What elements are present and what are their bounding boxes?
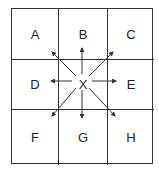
cell-e: E <box>108 60 154 110</box>
cell-g: G <box>59 110 108 165</box>
cell-b: B <box>59 9 108 60</box>
neighbor-grid: A B C D X E F G H <box>11 8 153 164</box>
cell-d: D <box>12 60 59 110</box>
cell-h: H <box>108 110 154 165</box>
cell-a: A <box>12 9 59 60</box>
cell-f: F <box>12 110 59 165</box>
cell-c: C <box>108 9 154 60</box>
cell-x-center: X <box>59 60 108 110</box>
